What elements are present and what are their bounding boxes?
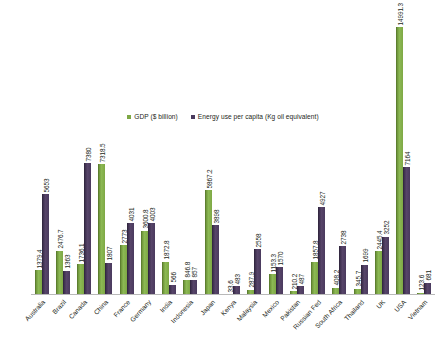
bar-group: 1736.17380: [74, 18, 95, 295]
category-label-text: Japan: [199, 299, 216, 317]
bar-wrapper: 408.2: [332, 18, 339, 295]
category-label: China: [95, 297, 116, 363]
category-label: India: [159, 297, 180, 363]
bar-wrapper: 2738: [339, 18, 346, 295]
bar-gdp[interactable]: 7318.5: [98, 164, 105, 295]
category-label-text: UK: [376, 299, 387, 310]
bar-group: 287.92558: [244, 18, 265, 295]
category-label: France: [116, 297, 137, 363]
bar-wrapper: 2476.7: [56, 18, 63, 295]
bar-energy[interactable]: 7380: [84, 163, 91, 295]
bar-gdp[interactable]: 2476.7: [56, 251, 63, 295]
bar-wrapper: 7318.5: [98, 18, 105, 295]
category-label-text: Brazil: [51, 299, 67, 316]
bar-wrapper: 857: [190, 18, 197, 295]
bar-group: 7318.51807: [95, 18, 116, 295]
bar-wrapper: 1857.8: [311, 18, 318, 295]
category-label: Germany: [137, 297, 158, 363]
bar-gdp[interactable]: 2773: [120, 245, 127, 295]
bar-energy[interactable]: 3898: [212, 225, 219, 295]
bar-gdp[interactable]: 5867.2: [205, 190, 212, 295]
bar-value-label: 7380: [86, 147, 92, 161]
bar-wrapper: 846.8: [183, 18, 190, 295]
bar-wrapper: 4003: [148, 18, 155, 295]
bar-wrapper: 1570: [276, 18, 283, 295]
bar-energy[interactable]: 7164: [403, 167, 410, 295]
category-label: Russian Fed: [307, 297, 328, 363]
bar-value-label: 1570: [278, 251, 284, 265]
bar-energy[interactable]: 5653: [42, 194, 49, 295]
bar-gdp[interactable]: 1736.1: [77, 264, 84, 295]
bar-wrapper: 1807: [105, 18, 112, 295]
bar-gdp[interactable]: 1872.8: [162, 262, 169, 295]
bar-energy[interactable]: 1699: [361, 265, 368, 295]
bar-value-label: 4031: [129, 207, 135, 221]
bar-group: 27734031: [116, 18, 137, 295]
category-label: Brazil: [52, 297, 73, 363]
bar-value-label: 1363: [65, 255, 71, 269]
category-label-text: France: [112, 299, 131, 319]
category-label: Kenya: [222, 297, 243, 363]
bar-energy[interactable]: 1807: [105, 263, 112, 295]
bar-energy[interactable]: 857: [190, 280, 197, 295]
plot-area: 1379.456532476.713631736.173807318.51807…: [31, 18, 435, 295]
bar-energy[interactable]: 1363: [63, 271, 70, 295]
bar-gdp[interactable]: 2445.4: [375, 251, 382, 295]
bar-wrapper: 566: [169, 18, 176, 295]
category-label: Canada: [74, 297, 95, 363]
bar-wrapper: 7380: [84, 18, 91, 295]
bar-wrapper: 7164: [403, 18, 410, 295]
bar-group: 123.6681: [414, 18, 435, 295]
bar-energy[interactable]: 3252: [382, 237, 389, 295]
category-label-text: Australia: [24, 299, 47, 323]
bar-wrapper: 1153.3: [269, 18, 276, 295]
bar-group: 2476.71363: [52, 18, 73, 295]
bar-gdp[interactable]: 846.8: [183, 280, 190, 295]
bar-value-label: 2738: [341, 230, 347, 244]
category-label-text: Kenya: [220, 299, 238, 317]
bar-value-label: 483: [235, 274, 241, 284]
bar-energy[interactable]: 4927: [318, 207, 325, 295]
bar-wrapper: 681: [424, 18, 431, 295]
bar-wrapper: 4927: [318, 18, 325, 295]
category-label: Thailand: [350, 297, 371, 363]
bar-gdp[interactable]: 14991.3: [396, 27, 403, 295]
category-label: Mexico: [265, 297, 286, 363]
bar-gdp[interactable]: 3600.8: [141, 231, 148, 295]
bar-value-label: 4003: [150, 208, 156, 222]
bar-wrapper: 2445.4: [375, 18, 382, 295]
bar-group: 408.22738: [329, 18, 350, 295]
bar-wrapper: 487: [297, 18, 304, 295]
bar-energy[interactable]: 1570: [276, 267, 283, 295]
bar-value-label: 7164: [405, 151, 411, 165]
bar-wrapper: 3600.8: [141, 18, 148, 295]
category-label: South Africa: [329, 297, 350, 363]
bar-energy[interactable]: 4003: [148, 223, 155, 295]
bar-group: 3600.84003: [137, 18, 158, 295]
bar-wrapper: 483: [233, 18, 240, 295]
bar-energy[interactable]: 2738: [339, 246, 346, 295]
bar-gdp[interactable]: 1379.4: [35, 270, 42, 295]
bar-value-label: 681: [426, 270, 432, 280]
x-axis-line: [31, 294, 435, 295]
bar-value-label: 3898: [214, 210, 220, 224]
bar-gdp[interactable]: 1153.3: [269, 274, 276, 295]
category-label: Japan: [201, 297, 222, 363]
bar-wrapper: 1872.8: [162, 18, 169, 295]
bar-energy[interactable]: 2558: [254, 249, 261, 295]
category-label: USA: [393, 297, 414, 363]
bar-energy[interactable]: 4031: [127, 223, 134, 295]
category-label-text: India: [159, 299, 174, 314]
bar-value-label: 2558: [256, 233, 262, 247]
bar-wrapper: 345.7: [354, 18, 361, 295]
category-label: Indonesia: [180, 297, 201, 363]
bar-wrapper: 3252: [382, 18, 389, 295]
category-label-text: USA: [394, 299, 408, 314]
category-axis-labels: AustraliaBrazilCanadaChinaFranceGermanyI…: [31, 297, 435, 363]
bar-group: 33.6483: [222, 18, 243, 295]
bar-group: 5867.23898: [201, 18, 222, 295]
bar-group: 210.2487: [286, 18, 307, 295]
bar-gdp[interactable]: 1857.8: [311, 262, 318, 295]
bar-wrapper: 3898: [212, 18, 219, 295]
bar-wrapper: 1699: [361, 18, 368, 295]
